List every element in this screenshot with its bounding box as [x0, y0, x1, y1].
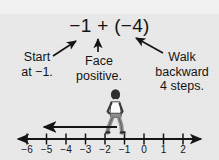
tick-label--3: −3: [77, 144, 95, 156]
tick-label--1: −1: [116, 144, 134, 156]
tick-label-1: 1: [155, 144, 173, 156]
tick-label--5: −5: [38, 144, 56, 156]
tick-label--4: −4: [57, 144, 75, 156]
tick-label-0: 0: [135, 144, 153, 156]
tick-label-2: 2: [174, 144, 192, 156]
tick-label--2: −2: [96, 144, 114, 156]
number-line-figure: −1 + (−4) Start at −1. Face positive. Wa…: [0, 0, 219, 160]
tick-label--6: −6: [18, 144, 36, 156]
number-line-axis: [0, 0, 219, 160]
